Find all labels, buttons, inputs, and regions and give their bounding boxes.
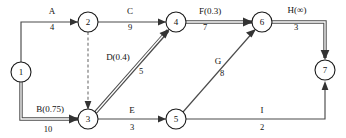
- edge-a-duration-label: 4: [50, 22, 55, 32]
- edge-e-duration-label: 3: [130, 122, 134, 132]
- node-4-label: 4: [174, 17, 179, 27]
- edge-g-name-label: G: [215, 56, 222, 66]
- edge-c-name-label: C: [127, 6, 133, 16]
- node-2[interactable]: 2: [78, 12, 98, 32]
- node-1-label: 1: [19, 67, 24, 77]
- edge-h-name-label: H(∞): [288, 5, 307, 15]
- edge-i-line: [186, 84, 325, 119]
- edge-a-name-label: A: [49, 6, 56, 16]
- node-6-label: 6: [260, 17, 265, 27]
- edge-g-arrowhead: [246, 29, 256, 38]
- edge-f-duration-label: 7: [203, 22, 207, 32]
- node-3-label: 3: [86, 114, 91, 124]
- edge-dummy: [85, 32, 92, 110]
- edge-f-name-label: F(0.3): [199, 6, 221, 16]
- edge-b-duration-label: 10: [44, 124, 53, 134]
- edge-h-arrowhead: [321, 50, 330, 60]
- edge-i-duration-label: 2: [260, 122, 264, 132]
- node-5[interactable]: 5: [166, 109, 186, 129]
- edge-f: [186, 18, 253, 27]
- node-7[interactable]: 7: [315, 60, 335, 80]
- edge-b: [21, 82, 79, 123]
- edge-h-line-inner: [272, 22, 325, 53]
- edge-a-arrowhead: [70, 19, 78, 26]
- edge-i-name-label: I: [261, 105, 264, 115]
- edge-c-arrowhead: [158, 19, 166, 26]
- node-5-label: 5: [174, 114, 179, 124]
- edge-d-name-label: D(0.4): [106, 52, 130, 62]
- edge-e-name-label: E: [129, 105, 135, 115]
- edge-h-line-outer: [272, 22, 325, 58]
- activity-network-diagram: 1 2 3 4 5 6 7 A 4 B(0.75) 10: [0, 0, 346, 138]
- edge-h-duration-label: 3: [294, 22, 298, 32]
- edge-g-line: [183, 31, 254, 112]
- node-1[interactable]: 1: [11, 62, 31, 82]
- network-canvas: 1 2 3 4 5 6 7 A 4 B(0.75) 10: [0, 0, 346, 138]
- node-6[interactable]: 6: [252, 12, 272, 32]
- edge-d-duration-label: 5: [139, 66, 143, 76]
- node-4[interactable]: 4: [166, 12, 186, 32]
- edge-g-duration-label: 8: [220, 68, 224, 78]
- node-3[interactable]: 3: [78, 109, 98, 129]
- edge-h: [272, 22, 329, 60]
- edge-e-arrowhead: [158, 116, 166, 123]
- edge-i: [186, 81, 328, 119]
- edge-b-name-label: B(0.75): [36, 104, 64, 114]
- edge-d: [96, 29, 170, 113]
- edge-i-arrowhead: [322, 81, 329, 90]
- edge-d-line-inner: [96, 35, 164, 113]
- edge-c-duration-label: 9: [128, 22, 132, 32]
- node-2-label: 2: [86, 17, 91, 27]
- node-7-label: 7: [323, 65, 328, 75]
